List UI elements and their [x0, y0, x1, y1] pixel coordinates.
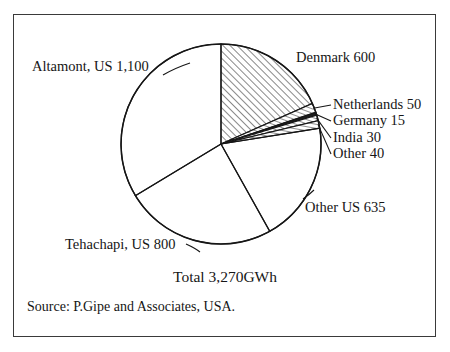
slice-label-netherlands: Netherlands 50: [333, 97, 421, 112]
slice-label-india: India 30: [333, 130, 381, 145]
slice-label-other: Other 40: [333, 146, 384, 161]
source-caption: Source: P.Gipe and Associates, USA.: [27, 300, 235, 315]
slice-label-denmark: Denmark 600: [296, 50, 375, 65]
slice-label-tehachapi: Tehachapi, US 800: [65, 237, 176, 252]
leader-line: [313, 105, 331, 108]
leader-line: [186, 244, 200, 252]
pie-slice: [135, 144, 269, 244]
slice-label-altamont: Altamont, US 1,100: [32, 59, 149, 74]
total-caption: Total 3,270GWh: [0, 269, 450, 285]
pie-slice: [221, 128, 321, 231]
leader-line: [163, 63, 190, 75]
figure-container: Altamont, US 1,100 Denmark 600 Netherlan…: [0, 0, 450, 352]
pie-slices: [121, 44, 321, 244]
slice-label-germany: Germany 15: [333, 113, 405, 128]
slice-label-other-us: Other US 635: [305, 200, 386, 215]
